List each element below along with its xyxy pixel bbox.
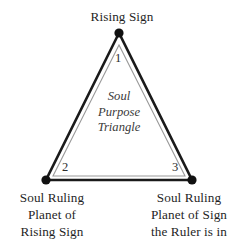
corner-number-2: 2 <box>62 161 68 174</box>
corner-number-3: 3 <box>172 161 178 174</box>
vertex-dot-2 <box>41 175 50 184</box>
vertex-label-soul-ruling-planet-of-rising-sign: Soul Ruling Planet of Rising Sign <box>0 189 106 240</box>
vertex-label-soul-ruling-planet-of-sign-the-ruler-is-in: Soul Ruling Planet of Sign the Ruler is … <box>133 189 243 240</box>
vertex-dot-1 <box>114 28 123 37</box>
corner-number-1: 1 <box>115 52 121 65</box>
soul-purpose-triangle-diagram: Rising Sign Soul Ruling Planet of Rising… <box>0 0 243 249</box>
vertex-label-rising-sign: Rising Sign <box>52 8 192 25</box>
vertex-dot-3 <box>187 175 196 184</box>
center-caption-soul-purpose-triangle: Soul Purpose Triangle <box>59 89 179 136</box>
